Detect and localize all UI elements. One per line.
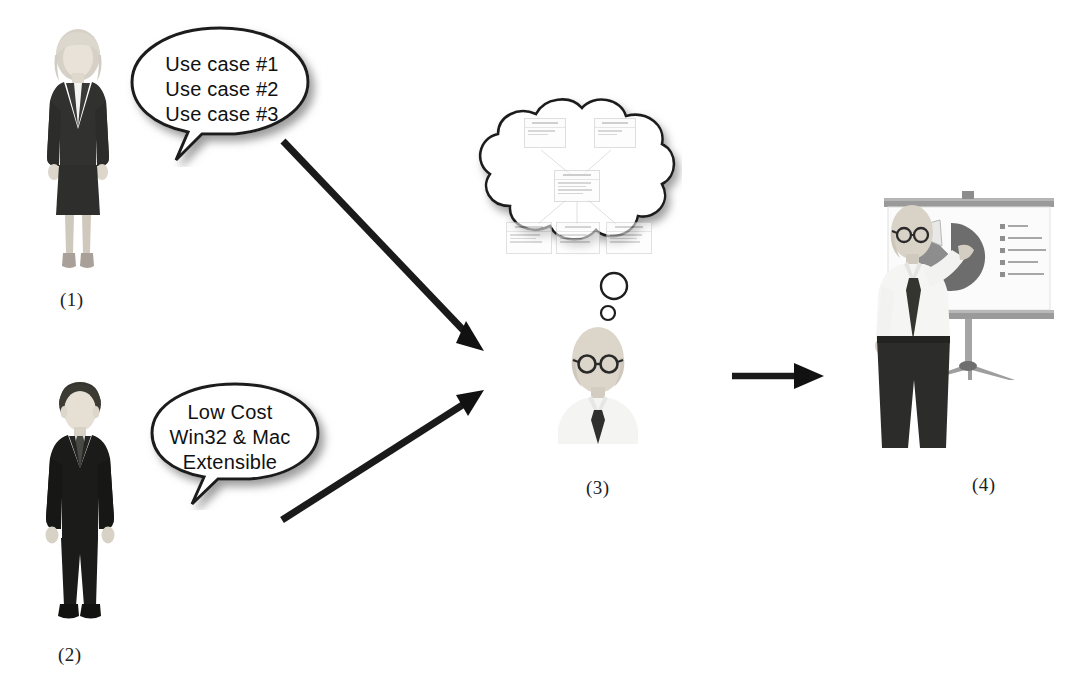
uml-box-body	[507, 232, 551, 247]
uml-box-title	[507, 223, 551, 232]
businessman-figure	[28, 378, 132, 628]
step-caption-1: (1)	[60, 289, 84, 311]
architect-illustration	[548, 324, 648, 444]
uml-box-bottom-left	[506, 222, 552, 254]
uml-box-body	[607, 232, 651, 247]
uml-box-title	[607, 223, 651, 232]
arrow-architect-to-presenter	[726, 358, 832, 394]
uml-box-body	[525, 128, 565, 139]
businesswoman-figure	[30, 25, 126, 280]
uml-box-title	[557, 223, 599, 232]
uml-box-bottom-right	[606, 222, 652, 254]
presenter-figure	[862, 200, 994, 448]
businessman-illustration	[28, 378, 132, 628]
uml-box-body	[555, 180, 599, 198]
uml-box-body	[557, 232, 599, 247]
step-caption-2: (2)	[58, 644, 82, 666]
uml-box-top-right	[594, 118, 636, 148]
uml-box-title	[595, 119, 635, 128]
presenter-illustration	[862, 200, 994, 448]
diagram-canvas: (1) Use case #1 Use case #2 Use case #3	[0, 0, 1092, 676]
pie-chart-legend	[1000, 222, 1052, 274]
uml-thought-cloud	[466, 92, 682, 277]
businesswoman-illustration	[30, 25, 126, 280]
step-caption-4: (4)	[972, 474, 996, 496]
uml-box-top-left	[524, 118, 566, 148]
uml-box-center	[554, 170, 600, 202]
architect-figure	[548, 324, 648, 444]
step-caption-3: (3)	[586, 477, 610, 499]
uml-box-bottom-center	[556, 222, 600, 254]
uml-box-title	[525, 119, 565, 128]
uml-box-body	[595, 128, 635, 139]
thought-bubble-dots	[592, 270, 652, 330]
uml-box-title	[555, 171, 599, 180]
arrow-stakeholder2-to-architect	[268, 378, 496, 530]
